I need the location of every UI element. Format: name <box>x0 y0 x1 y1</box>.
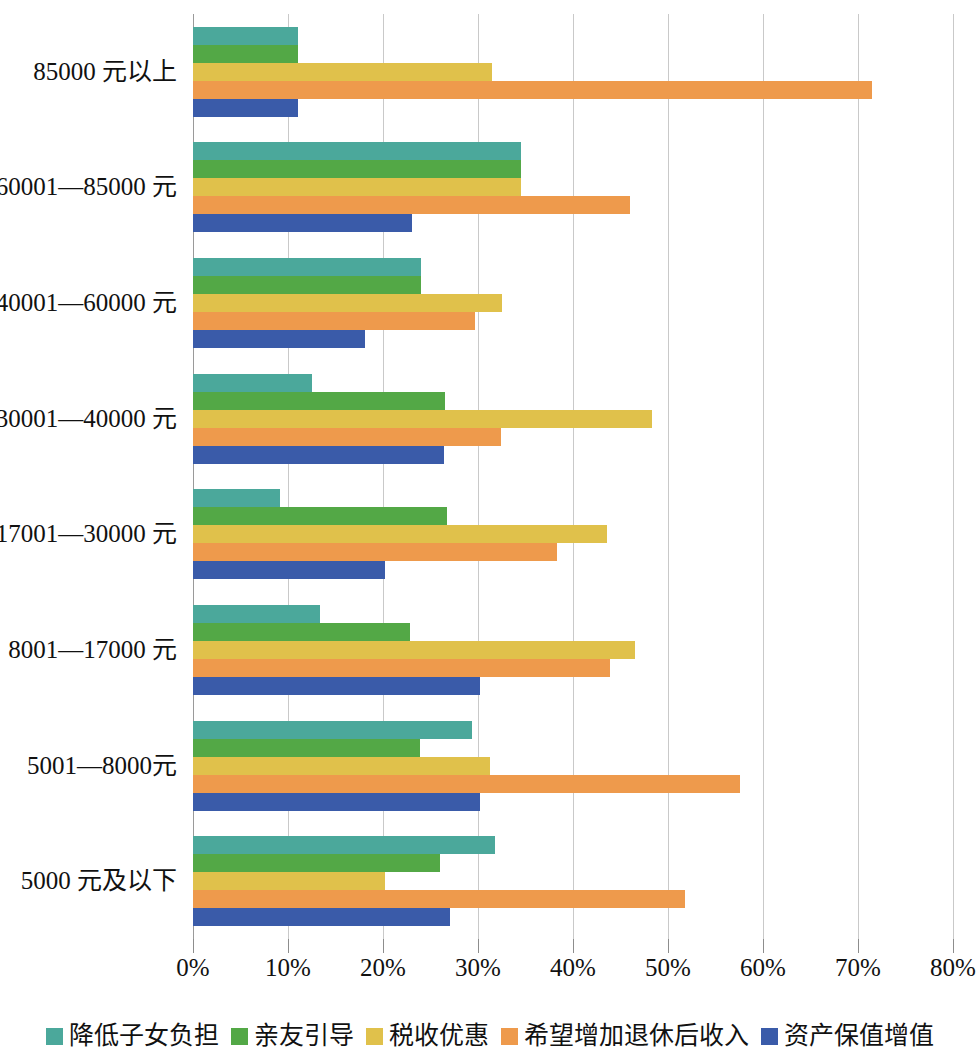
legend-label: 资产保值增值 <box>784 1022 934 1050</box>
x-axis-tick <box>858 939 859 953</box>
legend-label: 希望增加退休后收入 <box>524 1022 749 1050</box>
x-axis-tick <box>763 939 764 953</box>
legend-swatch-icon <box>46 1028 63 1045</box>
legend-item[interactable]: 税收优惠 <box>366 1022 489 1050</box>
bar <box>193 836 495 854</box>
bar-group <box>193 721 953 811</box>
bar <box>193 214 412 232</box>
bar <box>193 872 385 890</box>
bar <box>193 757 490 775</box>
x-axis-tick-label: 30% <box>455 954 501 982</box>
bar <box>193 428 501 446</box>
legend-item[interactable]: 希望增加退休后收入 <box>501 1022 749 1050</box>
legend-item[interactable]: 降低子女负担 <box>46 1022 219 1050</box>
x-axis-tick <box>193 939 194 953</box>
x-axis-tick-label: 50% <box>645 954 691 982</box>
bar <box>193 99 298 117</box>
legend-item[interactable]: 亲友引导 <box>231 1022 354 1050</box>
bar <box>193 81 872 99</box>
bar <box>193 543 557 561</box>
bar <box>193 561 385 579</box>
y-axis-tick-label: 5001—8000元 <box>27 752 177 780</box>
y-axis-tick-label: 5000 元及以下 <box>21 867 177 895</box>
bar <box>193 312 475 330</box>
bar <box>193 854 440 872</box>
bar-group <box>193 489 953 579</box>
bar-group <box>193 605 953 695</box>
bar <box>193 489 280 507</box>
bar <box>193 605 320 623</box>
bar <box>193 142 521 160</box>
bar <box>193 178 521 196</box>
bar <box>193 330 365 348</box>
legend-swatch-icon <box>761 1028 778 1045</box>
x-axis-tick <box>953 939 954 953</box>
bar <box>193 27 298 45</box>
y-axis-tick-label: 8001—17000 元 <box>8 636 177 664</box>
bar <box>193 392 445 410</box>
y-axis-tick-label: 85000 元以上 <box>33 58 177 86</box>
bar <box>193 374 312 392</box>
x-axis-tick <box>383 939 384 953</box>
bar <box>193 63 492 81</box>
legend-item[interactable]: 资产保值增值 <box>761 1022 934 1050</box>
bar-group <box>193 374 953 464</box>
legend-swatch-icon <box>501 1028 518 1045</box>
bar <box>193 677 480 695</box>
bar <box>193 721 472 739</box>
bar <box>193 446 444 464</box>
legend-label: 税收优惠 <box>389 1022 489 1050</box>
x-axis-tick <box>288 939 289 953</box>
bar <box>193 890 685 908</box>
x-axis-tick-label: 0% <box>176 954 209 982</box>
bar <box>193 294 502 312</box>
bar <box>193 659 610 677</box>
x-axis-tick <box>478 939 479 953</box>
y-axis-tick-label: 40001—60000 元 <box>0 289 177 317</box>
plot-area <box>193 14 953 939</box>
legend-label: 降低子女负担 <box>69 1022 219 1050</box>
x-axis-tick-label: 70% <box>835 954 881 982</box>
horizontal-grouped-bar-chart: 85000 元以上60001—85000 元40001—60000 元30001… <box>0 0 980 1059</box>
x-axis-tick-label: 80% <box>930 954 976 982</box>
bar <box>193 793 480 811</box>
x-axis-tick <box>668 939 669 953</box>
legend-swatch-icon <box>366 1028 383 1045</box>
x-axis-tick-label: 60% <box>740 954 786 982</box>
y-axis-tick-label: 30001—40000 元 <box>0 405 177 433</box>
bar <box>193 45 298 63</box>
x-axis-tick-label: 20% <box>360 954 406 982</box>
x-axis-tick-label: 40% <box>550 954 596 982</box>
bar <box>193 258 421 276</box>
bar <box>193 276 421 294</box>
bar <box>193 641 635 659</box>
bar <box>193 160 521 178</box>
bar-group <box>193 836 953 926</box>
x-axis: 0%10%20%30%40%50%60%70%80% <box>193 939 953 979</box>
bar-group <box>193 27 953 117</box>
plot-wrapper: 85000 元以上60001—85000 元40001—60000 元30001… <box>0 0 980 952</box>
bar <box>193 908 450 926</box>
chart-legend: 降低子女负担亲友引导税收优惠希望增加退休后收入资产保值增值 <box>0 1018 980 1054</box>
y-axis-tick-label: 60001—85000 元 <box>0 173 177 201</box>
bar <box>193 739 420 757</box>
bar <box>193 623 410 641</box>
y-axis-category-labels: 85000 元以上60001—85000 元40001—60000 元30001… <box>0 14 185 939</box>
bar <box>193 507 447 525</box>
legend-swatch-icon <box>231 1028 248 1045</box>
bar <box>193 525 607 543</box>
legend-label: 亲友引导 <box>254 1022 354 1050</box>
bar <box>193 410 652 428</box>
y-axis-tick-label: 17001—30000 元 <box>0 520 177 548</box>
gridline-80pct <box>953 14 954 939</box>
bar-group <box>193 258 953 348</box>
x-axis-tick <box>573 939 574 953</box>
bar <box>193 775 740 793</box>
bar <box>193 196 630 214</box>
bar-group <box>193 142 953 232</box>
x-axis-tick-label: 10% <box>265 954 311 982</box>
